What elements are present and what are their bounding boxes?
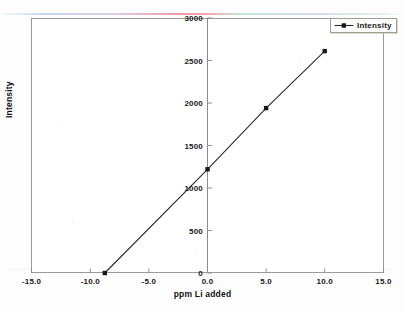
x-tick-label: -15.0 [22,277,41,286]
x-tick-label: 10.0 [317,277,333,286]
y-tick-marks [208,18,213,273]
y-tick-label: 2500 [170,56,203,65]
legend[interactable]: Intensity [330,18,397,33]
y-tick-label: 0 [170,269,203,278]
data-point [264,106,268,110]
legend-label-intensity: Intensity [357,21,392,30]
data-point [205,167,209,171]
y-tick-label: 500 [170,226,203,235]
plot-drawing-area [0,0,405,310]
y-tick-label: 3000 [170,14,203,23]
y-axis-title: Intensity [4,81,14,118]
x-axis-title: ppm Li added [0,289,405,299]
data-series-intensity-line [105,51,325,273]
y-tick-label: 1500 [170,141,203,150]
x-tick-label: 0.0 [202,277,214,286]
x-tick-label: 5.0 [260,277,272,286]
legend-line-marker-icon [334,21,354,30]
data-point [323,49,327,53]
x-tick-marks [32,269,384,274]
data-point [103,271,107,275]
x-tick-label: 15.0 [375,277,391,286]
x-tick-label: -10.0 [81,277,100,286]
y-tick-label: 2000 [170,99,203,108]
chart-container: -15.0 -10.0 -5.0 0.0 5.0 10.0 15.0 0 500… [0,0,405,310]
y-tick-label: 1000 [170,184,203,193]
x-tick-label: -5.0 [142,277,157,286]
